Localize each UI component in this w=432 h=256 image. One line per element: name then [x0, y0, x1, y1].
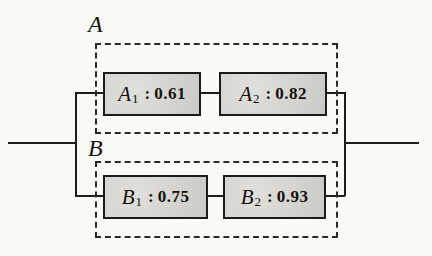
block-b2-letter: B [241, 185, 254, 210]
group-a-label: A [88, 12, 103, 36]
block-a2-letter: A [239, 82, 252, 107]
block-a2-separator: : [265, 84, 271, 104]
group-b-label: B [88, 136, 103, 160]
block-b2-subscript: 2 [254, 194, 261, 210]
right-bus-line [344, 92, 346, 196]
block-b1: B1:0.75 [103, 175, 208, 219]
block-a1-letter: A [118, 82, 131, 107]
block-a1-separator: : [144, 84, 150, 104]
block-b1-letter: B [122, 185, 135, 210]
block-a2: A2:0.82 [219, 72, 327, 116]
block-b2: B2:0.93 [223, 175, 326, 219]
block-b2-value: 0.93 [277, 187, 309, 207]
block-b2-separator: : [267, 187, 273, 207]
input-line [8, 142, 77, 144]
block-a1: A1:0.61 [103, 72, 201, 116]
output-line [345, 142, 419, 144]
reliability-block-diagram: A B A1:0.61 A2:0.82 B1:0.75 B2:0.93 [0, 0, 432, 256]
block-b1-value: 0.75 [158, 187, 190, 207]
block-b1-subscript: 1 [135, 194, 142, 210]
block-b1-separator: : [148, 187, 154, 207]
block-a1-value: 0.61 [154, 84, 186, 104]
block-a1-subscript: 1 [132, 91, 139, 107]
block-a2-value: 0.82 [275, 84, 307, 104]
block-a2-subscript: 2 [253, 91, 260, 107]
left-bus-line [75, 92, 77, 197]
